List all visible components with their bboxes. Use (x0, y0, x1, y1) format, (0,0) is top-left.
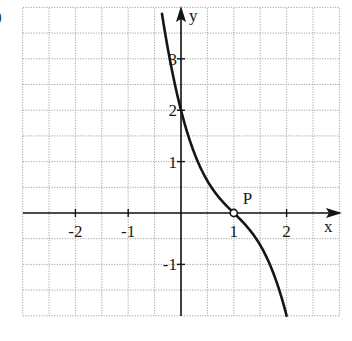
y-tick-label: 2 (169, 101, 178, 120)
x-tick-label: -1 (121, 222, 135, 241)
function-graph: ) x y -2-112-1123 P (0, 0, 352, 341)
corner-label: ) (0, 7, 2, 26)
y-axis-label: y (189, 6, 198, 25)
x-axis-label: x (324, 217, 333, 236)
x-tick-label: -2 (68, 222, 82, 241)
point-p-marker-icon (230, 209, 237, 216)
y-tick-label: -1 (163, 255, 177, 274)
x-tick-label: 1 (230, 222, 239, 241)
x-tick-label: 2 (282, 222, 291, 241)
y-tick-label: 1 (169, 153, 178, 172)
point-p-label: P (243, 189, 252, 208)
